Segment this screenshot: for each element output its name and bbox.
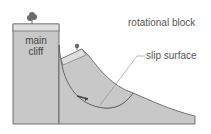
cliff-top-strip	[13, 24, 59, 31]
main-cliff-label-line2: cliff	[13, 46, 59, 57]
slip-surface-label: slip surface	[146, 51, 197, 61]
tree-icon	[75, 44, 79, 50]
rotational-block-label: rotational block	[128, 18, 195, 28]
tree-icon	[27, 12, 37, 24]
main-cliff-label: main cliff	[13, 35, 59, 57]
main-cliff-label-line1: main	[13, 35, 59, 46]
